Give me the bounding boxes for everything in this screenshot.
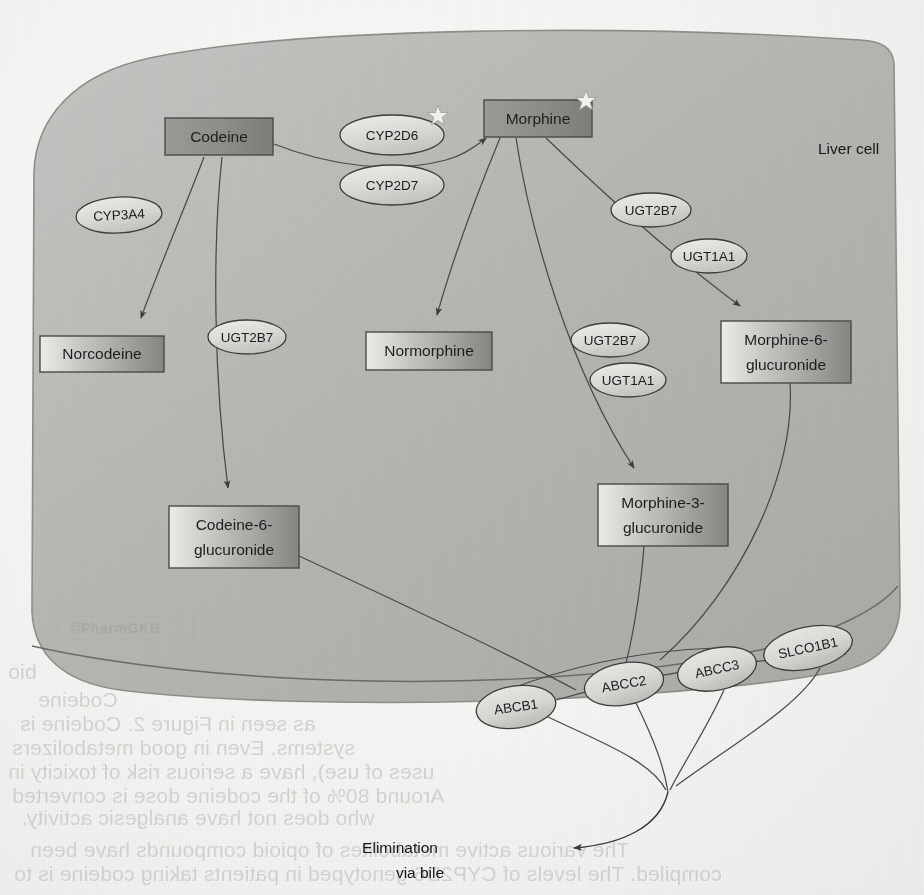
enzyme-label: UGT2B7	[584, 333, 637, 348]
pathway-node-normorphine: Normorphine	[366, 332, 492, 370]
elimination-label-line1: Elimination	[362, 839, 438, 856]
elimination-label-line2: via bile	[396, 864, 444, 881]
enzyme-label: CYP2D6	[366, 128, 419, 143]
enzyme-label: CYP3A4	[93, 206, 146, 224]
node-label: Morphine	[506, 110, 571, 127]
enzyme-label: CYP2D7	[366, 178, 419, 193]
node-label-line2: glucuronide	[194, 541, 274, 558]
pathway-node-m3g: Morphine-3-glucuronide	[598, 484, 728, 546]
watermark-text: ©PharmGKB	[70, 620, 160, 636]
pathway-node-m6g: Morphine-6-glucuronide	[721, 321, 851, 383]
edge-abcb1-outflow	[546, 716, 666, 790]
enzyme-label: UGT2B7	[625, 203, 678, 218]
enzyme-label: UGT2B7	[221, 330, 274, 345]
pathway-node-codeine: Codeine	[165, 118, 273, 155]
enzyme-ugt1a1_m3g: UGT1A1	[590, 363, 666, 397]
node-label: Normorphine	[384, 342, 474, 359]
node-label-line2: glucuronide	[623, 519, 703, 536]
enzyme-ugt2b7_m3g: UGT2B7	[571, 323, 649, 357]
enzyme-label: UGT1A1	[683, 249, 736, 264]
pathway-node-norcodeine: Norcodeine	[40, 336, 164, 372]
enzyme-cyp2d7: CYP2D7	[340, 165, 444, 205]
enzyme-label: UGT1A1	[602, 373, 655, 388]
edge-abcc3-outflow	[670, 690, 724, 790]
node-label-line1: Morphine-3-	[621, 494, 705, 511]
node-label-line2: glucuronide	[746, 356, 826, 373]
liver-cell-label: Liver cell	[818, 140, 879, 157]
edge-abcc2-outflow	[636, 703, 668, 792]
pathway-diagram: CodeineMorphineNorcodeineNormorphineMorp…	[0, 0, 924, 895]
enzyme-ugt2b7_m6g: UGT2B7	[611, 193, 691, 227]
node-label: Norcodeine	[62, 345, 141, 362]
node-label: Codeine	[190, 128, 248, 145]
edge-to-elimination	[574, 792, 668, 848]
enzyme-ugt1a1_m6g: UGT1A1	[671, 239, 747, 273]
enzyme-ugt2b7_c6g: UGT2B7	[208, 320, 286, 354]
node-label-line1: Codeine-6-	[196, 516, 273, 533]
pathway-node-c6g: Codeine-6-glucuronide	[169, 506, 299, 568]
node-label-line1: Morphine-6-	[744, 331, 828, 348]
scanned-page: bioCodeineas seen in Figure 2. Codeine i…	[0, 0, 924, 895]
